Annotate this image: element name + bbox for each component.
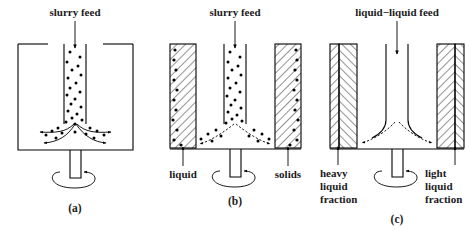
outlet-solids-b: solids	[275, 147, 302, 180]
drive-shaft-a	[70, 150, 81, 178]
outlet-label-light-line1: light	[425, 167, 447, 179]
feed-tube-c	[372, 44, 422, 138]
rotation-indicator-a	[52, 172, 95, 188]
feed-label-a: slurry feed	[49, 6, 100, 18]
outlet-label-heavy-line2: liquid	[320, 180, 348, 192]
flow-arrows-c	[362, 122, 432, 143]
slurry-dots-a	[45, 51, 106, 140]
outlet-label-liquid-b: liquid	[169, 168, 197, 180]
caption-b: (b)	[228, 195, 242, 208]
caption-c: (c)	[391, 213, 404, 226]
outlet-label-light-line2: liquid	[425, 180, 453, 192]
centrifuge-diagram-figure: slurry feed	[0, 0, 470, 231]
panel-b: slurry feed	[169, 6, 302, 208]
outlet-label-solids-b: solids	[275, 168, 302, 180]
feed-label-b: slurry feed	[209, 6, 260, 18]
outlet-label-heavy-line3: fraction	[320, 193, 357, 205]
flow-arrows-a	[40, 124, 111, 143]
panel-a: slurry feed	[18, 6, 133, 215]
outlet-label-heavy-line1: heavy	[320, 167, 348, 179]
caption-a: (a)	[68, 202, 82, 215]
outlet-light-liquid-c: light liquid fraction	[425, 147, 462, 205]
outlet-heavy-liquid-c: heavy liquid fraction	[320, 147, 357, 205]
drive-shaft-b	[230, 149, 241, 177]
drive-shaft-c	[392, 149, 403, 177]
wall-block-left-c	[330, 44, 357, 148]
outlet-label-light-line3: fraction	[425, 193, 462, 205]
panel-c: liquid−liquid feed heavy liquid	[320, 6, 464, 226]
feed-label-c: liquid−liquid feed	[355, 6, 439, 18]
outlet-liquid-b: liquid	[169, 147, 197, 180]
wall-block-right-c	[437, 44, 464, 148]
vessel-bowl-a	[18, 44, 133, 150]
rotation-indicator-b	[212, 171, 255, 187]
rotation-indicator-c	[374, 171, 417, 187]
